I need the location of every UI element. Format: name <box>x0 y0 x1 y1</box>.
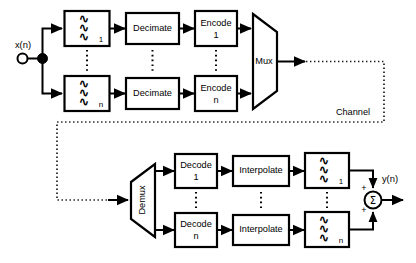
channel-label: Channel <box>336 107 370 117</box>
encode-n-index: n <box>213 95 218 105</box>
summer-plus-sign-bottom: + <box>361 205 366 215</box>
mux-label: Mux <box>255 56 273 66</box>
diagram-canvas: x(n) ∿ ∿ ∿ 1 Decimate Encode 1 ∿ ∿ ∿ n <box>0 0 416 263</box>
decimate-n-label: Decimate <box>133 88 172 98</box>
decode-1-index: 1 <box>193 172 198 182</box>
synthesis-filter-1-wave-icon: ∿ <box>319 171 330 186</box>
encode-1-label: Encode <box>200 18 231 28</box>
synthesis-filter-n-subscript: n <box>339 236 343 245</box>
interpolate-n-label: Interpolate <box>239 224 282 234</box>
decode-n-block[interactable] <box>175 213 217 247</box>
summer-plus-sign-top: + <box>361 183 366 193</box>
decimate-1-label: Decimate <box>133 23 172 33</box>
analysis-filter-n-wave-icon: ∿ <box>79 94 90 109</box>
interpolate-1-label: Interpolate <box>239 165 282 175</box>
encode-1-block[interactable] <box>195 11 237 46</box>
decode-1-block[interactable] <box>175 154 217 188</box>
encode-1-index: 1 <box>213 30 218 40</box>
output-label: y(n) <box>382 173 398 184</box>
input-terminal-icon <box>18 54 28 64</box>
input-label: x(n) <box>15 39 31 50</box>
analysis-filter-n-subscript: n <box>99 100 103 109</box>
synthesis-filter-n-wave-icon: ∿ <box>319 230 330 245</box>
summer-sigma-icon: Σ <box>370 195 376 206</box>
encode-n-label: Encode <box>200 83 231 93</box>
encode-n-block[interactable] <box>195 76 237 111</box>
analysis-filter-1-wave-icon: ∿ <box>79 29 90 44</box>
wire-input-to-analysis-filter-n <box>43 59 63 94</box>
analysis-filter-1-subscript: 1 <box>99 35 104 44</box>
synthesis-filter-1-subscript: 1 <box>339 177 344 186</box>
demux-label: Demux <box>137 185 147 215</box>
decode-n-index: n <box>193 231 198 241</box>
subband-coding-diagram: x(n) ∿ ∿ ∿ 1 Decimate Encode 1 ∿ ∿ ∿ n <box>0 0 416 263</box>
decode-n-label: Decode <box>180 219 212 229</box>
decode-1-label: Decode <box>180 160 212 170</box>
